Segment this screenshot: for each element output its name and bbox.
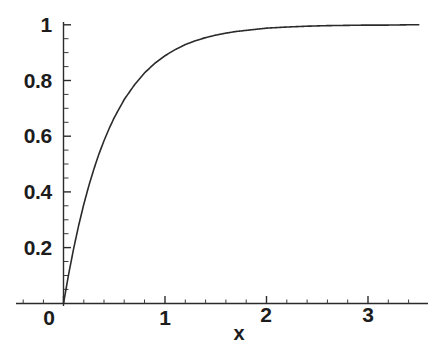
x-tick-label-3: 3 (362, 303, 373, 327)
x-tick-label-2: 2 (260, 303, 271, 327)
y-major-ticks (64, 25, 72, 248)
data-curve-line (64, 25, 419, 304)
y-tick-label-1: 1 (8, 13, 52, 37)
y-tick-label-0.2: 0.2 (8, 236, 52, 260)
y-tick-label-0.4: 0.4 (8, 180, 52, 204)
x-tick-label-0: 0 (43, 306, 54, 330)
x-major-ticks (64, 296, 369, 304)
y-minor-ticks (64, 39, 69, 290)
x-tick-label-1: 1 (159, 306, 170, 330)
y-tick-label-0.8: 0.8 (8, 69, 52, 93)
y-tick-label-0.6: 0.6 (8, 124, 52, 148)
plot-canvas (0, 0, 433, 355)
chart-figure: 0.2 0.4 0.6 0.8 1 0 1 2 3 x (0, 0, 433, 355)
x-axis-title: x (233, 322, 244, 345)
